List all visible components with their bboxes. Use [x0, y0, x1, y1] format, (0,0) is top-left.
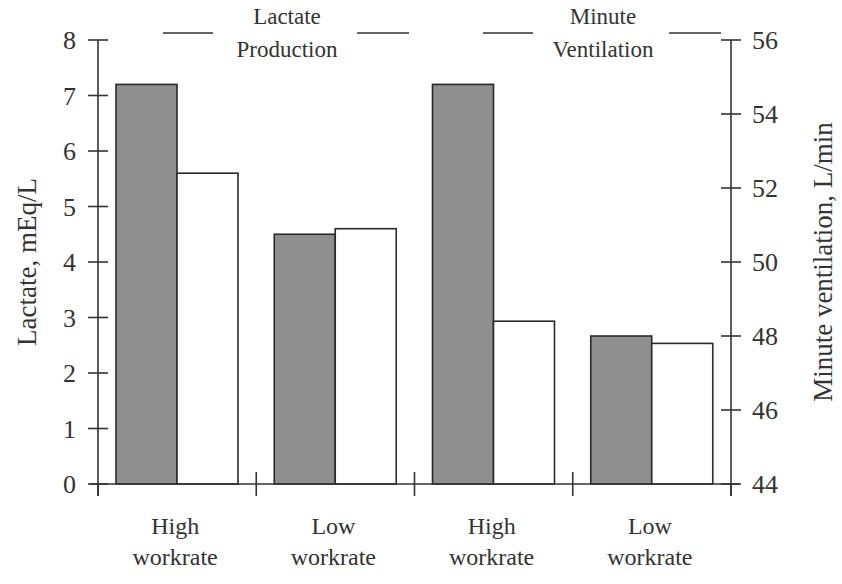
- bar-lactate-production-shaded: [274, 234, 335, 484]
- y-axis-left-tick-label: 4: [63, 248, 76, 277]
- y-axis-right-tick-label: 54: [752, 100, 778, 129]
- y-axis-left-tick-label: 3: [63, 304, 76, 333]
- y-axis-left-tick-label: 0: [63, 470, 76, 499]
- bar-minute-ventilation-open: [494, 321, 555, 484]
- bar-minute-ventilation-open: [652, 343, 713, 484]
- y-axis-right-tick-label: 56: [752, 26, 778, 55]
- y-axis-right-tick-label: 52: [752, 174, 778, 203]
- bar-minute-ventilation-shaded: [591, 336, 652, 484]
- group-label: Minute: [570, 4, 636, 29]
- group-label: Production: [237, 37, 338, 62]
- x-category-label: workrate: [449, 544, 534, 570]
- x-category-label: workrate: [291, 544, 376, 570]
- y-axis-right-tick-label: 48: [752, 322, 778, 351]
- x-category-label: High: [468, 513, 516, 539]
- bar-minute-ventilation-shaded: [433, 84, 494, 484]
- x-category-label: workrate: [132, 544, 217, 570]
- x-category-label: High: [151, 513, 199, 539]
- group-label: Ventilation: [553, 37, 654, 62]
- y-axis-left-tick-label: 1: [63, 415, 76, 444]
- legend: LactateProductionMinuteVentilation: [163, 4, 721, 62]
- bar-lactate-production-shaded: [116, 84, 177, 484]
- y-axis-left-tick-label: 8: [63, 26, 76, 55]
- y-axis-right-tick-label: 50: [752, 248, 778, 277]
- group-label: Lactate: [253, 4, 321, 29]
- x-category-label: Low: [628, 513, 673, 539]
- y-axis-left-tick-label: 7: [63, 82, 76, 111]
- y-axis-right-tick-label: 44: [752, 470, 778, 499]
- x-category-label: Low: [311, 513, 356, 539]
- y-axis-title-right: Minute ventilation, L/min: [808, 122, 838, 402]
- y-axis-title-left: Lactate, mEq/L: [12, 178, 42, 346]
- y-axis-left-tick-label: 5: [63, 193, 76, 222]
- y-axis-left-tick-label: 2: [63, 359, 76, 388]
- plot-bars: [116, 84, 713, 484]
- bar-lactate-production-open: [177, 173, 238, 484]
- y-axis-left-tick-label: 6: [63, 137, 76, 166]
- bar-chart: HighworkrateLowworkrateHighworkrateLowwo…: [0, 0, 842, 584]
- x-category-label: workrate: [607, 544, 692, 570]
- bar-lactate-production-open: [335, 229, 396, 484]
- y-axis-right-tick-label: 46: [752, 396, 778, 425]
